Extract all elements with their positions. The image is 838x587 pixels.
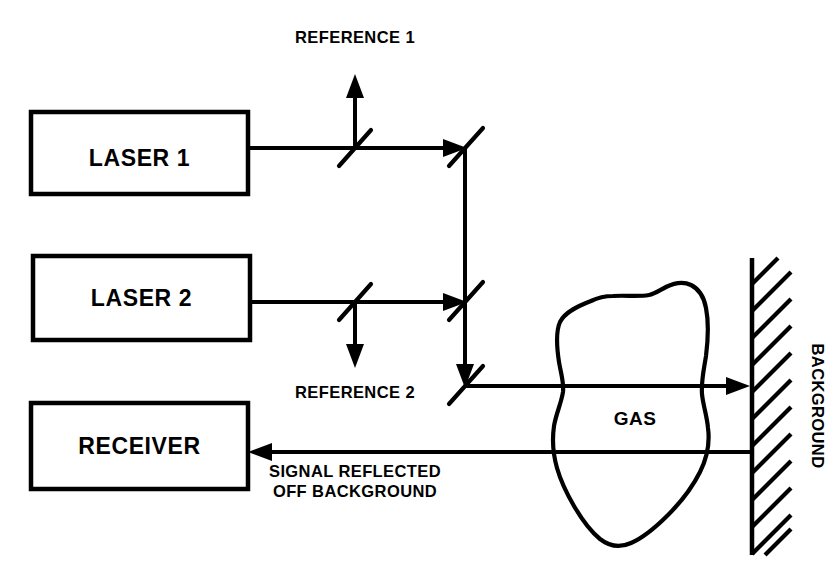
receiver-group: RECEIVER xyxy=(31,403,248,489)
laser2-group: LASER 2 xyxy=(33,256,250,340)
laser-gas-diagram: LASER 1 LASER 2 RECEIVER REFERENCE 1 R xyxy=(0,0,838,587)
receiver-label: RECEIVER xyxy=(78,433,200,459)
reference1-arrowhead xyxy=(346,74,364,98)
return-signal-arrowhead xyxy=(248,443,272,461)
background-hatching xyxy=(752,258,791,555)
laser2-label: LASER 2 xyxy=(91,285,192,311)
gas-label: GAS xyxy=(614,408,657,429)
reference2-label: REFERENCE 2 xyxy=(295,383,415,401)
laser1-label: LASER 1 xyxy=(89,145,190,171)
background-label: BACKGROUND xyxy=(809,344,827,469)
background-wall-group: BACKGROUND xyxy=(752,258,827,555)
diagram-canvas: LASER 1 LASER 2 RECEIVER REFERENCE 1 R xyxy=(0,0,838,587)
signal-caption-line1: SIGNAL REFLECTED xyxy=(269,462,441,480)
reference2-arrowhead xyxy=(346,344,364,368)
outgoing-beam-arrowhead xyxy=(726,377,750,395)
laser1-group: LASER 1 xyxy=(31,112,248,194)
reference1-label: REFERENCE 1 xyxy=(295,28,415,46)
signal-caption-line2: OFF BACKGROUND xyxy=(273,482,437,500)
